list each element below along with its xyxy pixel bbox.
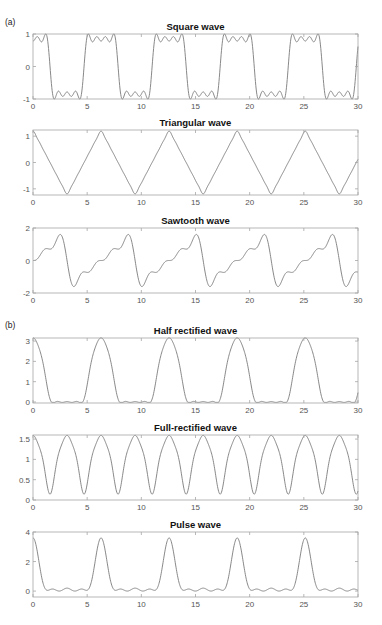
- data-line: [33, 131, 358, 194]
- x-tick-label: 10: [137, 296, 146, 305]
- x-tick-label: 15: [191, 296, 200, 305]
- axes-frame: [33, 130, 358, 195]
- y-tick-label: 1: [26, 455, 31, 464]
- y-tick-label: 0: [26, 496, 31, 505]
- x-tick-label: 20: [245, 600, 254, 609]
- y-tick-label: 2: [26, 558, 31, 567]
- y-tick-label: 0.5: [19, 476, 31, 485]
- x-tick-label: 15: [191, 503, 200, 512]
- figure: (a) (b) Square wave051015202530-101Trian…: [0, 0, 382, 625]
- x-tick-label: 5: [85, 296, 90, 305]
- y-tick-label: 1.5: [19, 435, 31, 444]
- x-tick-label: 25: [299, 503, 308, 512]
- chart-title: Half rectified wave: [154, 325, 237, 336]
- x-tick-label: 30: [354, 406, 363, 415]
- y-tick-label: 2: [26, 224, 31, 233]
- x-tick-label: 0: [31, 296, 36, 305]
- x-tick-label: 25: [299, 198, 308, 207]
- panel-label-a: (a): [5, 17, 16, 27]
- x-tick-label: 30: [354, 102, 363, 111]
- y-tick-label: 1: [26, 132, 31, 141]
- y-tick-label: 0: [26, 63, 31, 72]
- chart-title: Full-rectified wave: [154, 422, 237, 433]
- x-tick-label: 0: [31, 198, 36, 207]
- x-tick-label: 5: [85, 406, 90, 415]
- chart-title: Square wave: [166, 21, 224, 32]
- x-tick-label: 15: [191, 600, 200, 609]
- y-tick-label: 0: [26, 398, 31, 407]
- x-tick-label: 0: [31, 600, 36, 609]
- x-tick-label: 25: [299, 406, 308, 415]
- chart-triangular-wave: Triangular wave051015202530-101: [23, 117, 363, 207]
- axes-frame: [33, 228, 358, 293]
- data-line: [33, 338, 358, 402]
- x-tick-label: 5: [85, 503, 90, 512]
- x-tick-label: 0: [31, 102, 36, 111]
- x-tick-label: 10: [137, 503, 146, 512]
- chart-half-rectified-wave: Half rectified wave0510152025300123: [26, 325, 363, 415]
- x-tick-label: 30: [354, 198, 363, 207]
- y-tick-label: -1: [23, 185, 31, 194]
- x-tick-label: 15: [191, 406, 200, 415]
- y-tick-label: 1: [26, 30, 31, 39]
- data-line: [33, 435, 358, 494]
- chart-title: Pulse wave: [170, 519, 221, 530]
- y-tick-label: 2: [26, 357, 31, 366]
- x-tick-label: 10: [137, 198, 146, 207]
- x-tick-label: 30: [354, 600, 363, 609]
- chart-sawtooth-wave: Sawtooth wave051015202530-202: [23, 215, 363, 305]
- data-line: [33, 34, 358, 99]
- x-tick-label: 25: [299, 102, 308, 111]
- panel-label-b: (b): [5, 320, 16, 330]
- chart-pulse-wave: Pulse wave051015202530024: [26, 519, 363, 609]
- x-tick-label: 20: [245, 296, 254, 305]
- chart-square-wave: Square wave051015202530-101: [23, 21, 363, 111]
- y-tick-label: 0: [26, 257, 31, 266]
- axes-frame: [33, 532, 358, 597]
- data-line: [33, 234, 358, 286]
- y-tick-label: 0: [26, 587, 31, 596]
- chart-full-rectified-wave: Full-rectified wave05101520253000.511.5: [19, 422, 363, 512]
- y-tick-label: 1: [26, 378, 31, 387]
- x-tick-label: 5: [85, 198, 90, 207]
- x-tick-label: 30: [354, 296, 363, 305]
- x-tick-label: 15: [191, 198, 200, 207]
- x-tick-label: 15: [191, 102, 200, 111]
- y-tick-label: 4: [26, 528, 31, 537]
- x-tick-label: 10: [137, 600, 146, 609]
- y-tick-label: -2: [23, 289, 31, 298]
- y-tick-label: 3: [26, 337, 31, 346]
- x-tick-label: 30: [354, 503, 363, 512]
- x-tick-label: 20: [245, 198, 254, 207]
- x-tick-label: 25: [299, 600, 308, 609]
- y-tick-label: 0: [26, 159, 31, 168]
- x-tick-label: 5: [85, 600, 90, 609]
- x-tick-label: 5: [85, 102, 90, 111]
- chart-title: Sawtooth wave: [161, 215, 230, 226]
- x-tick-label: 20: [245, 406, 254, 415]
- y-tick-label: -1: [23, 95, 31, 104]
- data-line: [33, 538, 358, 591]
- x-tick-label: 0: [31, 406, 36, 415]
- x-tick-label: 25: [299, 296, 308, 305]
- axes-frame: [33, 338, 358, 403]
- x-tick-label: 0: [31, 503, 36, 512]
- x-tick-label: 10: [137, 406, 146, 415]
- x-tick-label: 20: [245, 102, 254, 111]
- chart-title: Triangular wave: [160, 117, 232, 128]
- plots-container: Square wave051015202530-101Triangular wa…: [19, 21, 363, 609]
- x-tick-label: 10: [137, 102, 146, 111]
- x-tick-label: 20: [245, 503, 254, 512]
